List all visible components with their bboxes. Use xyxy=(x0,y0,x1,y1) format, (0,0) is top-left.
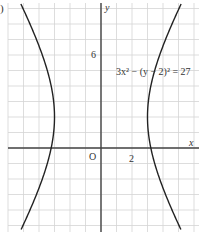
hyperbola-graph: y x O 2 6 3x² − (y − 2)² = 27 xyxy=(0,0,206,238)
equation-label: 3x² − (y − 2)² = 27 xyxy=(116,66,191,78)
y-tick-label-6: 6 xyxy=(91,49,96,60)
x-tick-label-2: 2 xyxy=(129,153,134,164)
grid-lines xyxy=(8,3,199,232)
x-axis-label: x xyxy=(188,137,194,148)
origin-label: O xyxy=(89,151,96,162)
y-axis-label: y xyxy=(104,2,110,13)
axes xyxy=(8,3,199,232)
